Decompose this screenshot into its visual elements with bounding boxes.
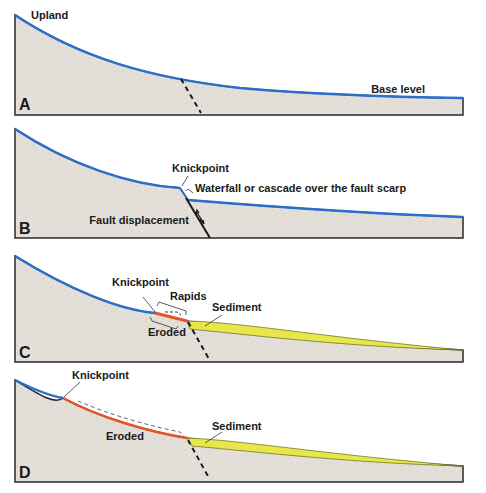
- eroded-label: Eroded: [148, 326, 186, 338]
- panel-c: Knickpoint Rapids Sediment Eroded C: [15, 256, 463, 362]
- panel-b: Knickpoint Waterfall or cascade over the…: [15, 129, 463, 238]
- base-level-label: Base level: [371, 83, 425, 95]
- fault-displacement-label: Fault displacement: [89, 214, 189, 226]
- sediment-label: Sediment: [212, 301, 262, 313]
- knickpoint-leader: [182, 176, 188, 186]
- waterfall-bracket: [186, 189, 193, 193]
- panel-letter-c: C: [19, 344, 31, 361]
- sediment-label: Sediment: [212, 420, 262, 432]
- panel-letter-a: A: [19, 96, 31, 113]
- original-profile-dashed: [165, 312, 181, 315]
- waterfall-label: Waterfall or cascade over the fault scar…: [195, 182, 406, 194]
- rapids-label: Rapids: [170, 290, 207, 302]
- panel-letter-d: D: [19, 464, 31, 481]
- knickpoint-label: Knickpoint: [172, 162, 229, 174]
- knickpoint-leader: [143, 297, 155, 312]
- knickpoint-label: Knickpoint: [112, 276, 169, 288]
- knickpoint-diagram: Upland Base level A Knickpoint Waterfall…: [0, 0, 486, 493]
- panel-letter-b: B: [19, 220, 31, 237]
- eroded-label: Eroded: [106, 430, 144, 442]
- knickpoint-label: Knickpoint: [72, 369, 129, 381]
- panel-a: Upland Base level A: [15, 9, 463, 115]
- upland-label: Upland: [31, 9, 68, 21]
- panel-d: Knickpoint Eroded Sediment D: [15, 369, 463, 482]
- ground-block: [15, 15, 463, 115]
- knickpoint-leader: [64, 382, 80, 397]
